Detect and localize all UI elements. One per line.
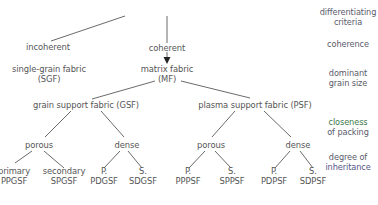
node-matrix-fabric: matrix fabric (MF)	[141, 64, 193, 84]
node-label-line2: (MF)	[141, 74, 193, 84]
leaf-pdgsf: P. PDGSF	[90, 166, 118, 186]
node-grain-support-fabric: grain support fabric (GSF)	[33, 100, 139, 110]
leaf-label-bottom: SPPSF	[219, 176, 244, 186]
node-gsf-dense: dense	[115, 140, 140, 150]
leaf-label-bottom: SPGSF	[43, 176, 86, 186]
leaf-pdpsf: P. PDPSF	[261, 166, 287, 186]
criterion-degree-of-inheritance: degree of inheritance	[325, 153, 370, 172]
criterion-differentiating-criteria: differentiating criteria	[320, 8, 377, 27]
leaf-label-bottom: PPGSF	[0, 176, 30, 186]
node-label-line2: (SGF)	[12, 74, 86, 84]
node-label-line1: single-grain fabric	[12, 64, 86, 74]
leaf-label-bottom: SDGSF	[129, 176, 157, 186]
criterion-label-line2: inheritance	[325, 163, 370, 173]
leaf-label-top: P.	[176, 166, 201, 176]
leaf-label-bottom: PPPSF	[176, 176, 201, 186]
leaf-label-top: primary	[0, 166, 30, 176]
criterion-dominant-grain-size: dominant grain size	[329, 69, 368, 88]
node-coherent: coherent	[149, 43, 185, 53]
leaf-label-top: S.	[129, 166, 157, 176]
node-gsf-porous: porous	[25, 140, 53, 150]
soil-fabric-classification-diagram: differentiating criteria coherence domin…	[0, 0, 378, 205]
criterion-label-line2: of packing	[327, 128, 369, 138]
criterion-closeness-of-packing: closeness of packing	[327, 118, 369, 137]
arrow-down-icon	[164, 57, 171, 64]
leaf-label-bottom: SDPSF	[300, 176, 326, 186]
node-plasma-support-fabric: plasma support fabric (PSF)	[198, 100, 311, 110]
leaf-label-bottom: PDGSF	[90, 176, 118, 186]
criterion-coherence: coherence	[327, 40, 369, 50]
node-incoherent: incoherent	[26, 42, 70, 52]
leaf-sdpsf: S. SDPSF	[300, 166, 326, 186]
leaf-label-top: S.	[219, 166, 244, 176]
leaf-sppsf: S. SPPSF	[219, 166, 244, 186]
node-single-grain-fabric: single-grain fabric (SGF)	[12, 64, 86, 84]
leaf-label-top: P.	[261, 166, 287, 176]
leaf-ppgsf: primary PPGSF	[0, 166, 30, 186]
leaf-label-bottom: PDPSF	[261, 176, 287, 186]
leaf-sdgsf: S. SDGSF	[129, 166, 157, 186]
leaf-pppsf: P. PPPSF	[176, 166, 201, 186]
criterion-label-line2: criteria	[320, 18, 377, 28]
leaf-label-top: P.	[90, 166, 118, 176]
leaf-label-top: secondary	[43, 166, 86, 176]
leaf-spgsf: secondary SPGSF	[43, 166, 86, 186]
leaf-label-top: S.	[300, 166, 326, 176]
node-label-line1: matrix fabric	[141, 64, 193, 74]
node-psf-porous: porous	[197, 140, 225, 150]
node-psf-dense: dense	[286, 140, 311, 150]
criterion-label-line2: grain size	[329, 79, 368, 89]
